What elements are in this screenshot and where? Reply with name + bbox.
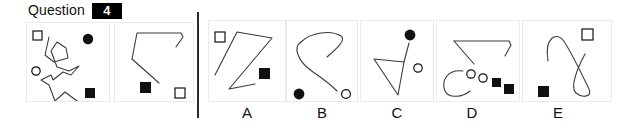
question-page: Question 4 A <box>0 0 638 130</box>
filled-square-marker <box>85 88 95 98</box>
open-circle-marker-1 <box>467 70 475 78</box>
option-c-figure <box>361 21 433 101</box>
option-label-a: A <box>227 104 267 122</box>
option-e-figure <box>523 21 611 101</box>
vertical-divider <box>197 12 199 118</box>
stimulus-panel-1[interactable] <box>26 22 110 102</box>
polyline-angular <box>132 33 183 59</box>
filled-square-marker <box>538 86 549 97</box>
filled-circle-marker <box>83 34 93 44</box>
polyline-squiggle <box>41 37 83 101</box>
option-a-figure <box>209 21 285 101</box>
question-header: Question 4 <box>28 2 122 19</box>
open-square-marker <box>582 29 593 40</box>
polyline-angular <box>454 41 511 56</box>
filled-square-marker-2 <box>504 84 514 94</box>
curve-c <box>444 71 470 96</box>
filled-square-marker <box>259 68 270 79</box>
curve-hook <box>297 33 343 91</box>
open-circle-marker <box>342 90 351 99</box>
option-panel-a[interactable] <box>208 20 286 102</box>
filled-circle-marker <box>294 89 305 100</box>
triangle-tail <box>404 43 409 62</box>
filled-square-marker-1 <box>492 78 501 87</box>
stimulus-panel-2[interactable] <box>114 22 194 102</box>
option-b-figure <box>287 21 357 101</box>
option-label-c: C <box>377 104 417 122</box>
question-number-badge: 4 <box>92 3 122 19</box>
option-label-b: B <box>302 104 342 122</box>
stimulus-panel-1-figure <box>27 23 109 101</box>
option-panel-e[interactable] <box>522 20 612 102</box>
open-square-marker <box>175 88 185 98</box>
filled-square-marker <box>140 82 151 93</box>
open-square-marker <box>215 32 225 42</box>
option-panel-d[interactable] <box>436 20 520 102</box>
option-panel-c[interactable] <box>360 20 434 102</box>
polyline-angular-tail <box>132 59 159 83</box>
option-d-figure <box>437 21 519 101</box>
option-label-e: E <box>538 104 578 122</box>
triangle-open <box>374 59 404 95</box>
option-label-d: D <box>452 104 492 122</box>
question-label: Question <box>28 2 85 19</box>
open-circle-marker-2 <box>479 74 487 82</box>
open-circle-marker <box>414 64 422 72</box>
open-square-marker <box>33 31 42 40</box>
option-panel-b[interactable] <box>286 20 358 102</box>
filled-circle-marker <box>405 30 416 41</box>
curve-s <box>547 36 590 96</box>
polyline-angular-tail <box>454 41 474 64</box>
stimulus-panel-2-figure <box>115 23 193 101</box>
open-circle-marker <box>32 67 40 75</box>
